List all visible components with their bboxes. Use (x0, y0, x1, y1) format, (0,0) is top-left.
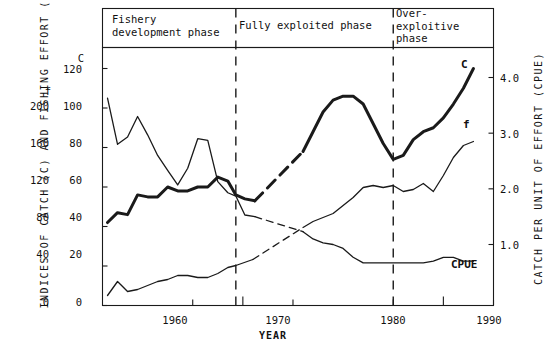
series-path-f (303, 142, 473, 228)
plot-canvas (0, 0, 546, 350)
series-path-f-dashed (253, 228, 303, 260)
series-path-cpue (108, 98, 255, 217)
phase-divider-lines (236, 9, 393, 306)
axis-tick-marks (103, 69, 494, 306)
series-path-cpue-dashed (255, 217, 303, 232)
series-path-c (303, 69, 473, 160)
chart-figure: INDICES OF CATCH (C) AND FISHING EFFORT … (0, 0, 546, 350)
series-path-cpue (303, 232, 473, 263)
series-path-c-dashed (255, 151, 303, 200)
series-path-c (108, 177, 255, 222)
series-path-f (108, 260, 253, 296)
series-paths (108, 69, 474, 296)
